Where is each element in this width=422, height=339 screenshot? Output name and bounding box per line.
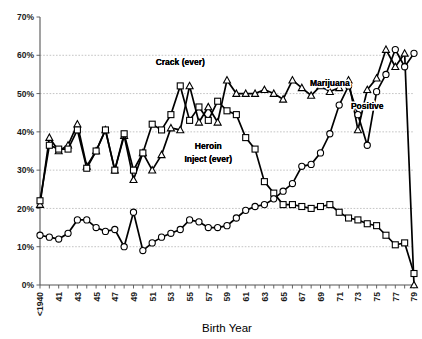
data-point-heroin-inject-ever-6 [93,148,99,154]
data-point-heroin-inject-ever-36 [374,223,380,229]
data-point-heroin-inject-ever-34 [355,217,361,223]
data-point-heroin-inject-ever-9 [121,131,127,137]
data-point-marijuana-positive-32 [336,102,342,108]
data-point-marijuana-positive-37 [383,71,389,77]
data-point-marijuana-positive-25 [271,196,277,202]
data-point-heroin-inject-ever-33 [346,215,352,221]
data-point-heroin-inject-ever-15 [177,83,183,89]
data-point-heroin-inject-ever-39 [402,240,408,246]
x-tick-label-61: 61 [241,292,251,302]
data-point-marijuana-positive-3 [65,230,71,236]
data-point-heroin-inject-ever-19 [215,98,221,104]
data-point-marijuana-positive-40 [411,50,417,56]
y-tick-label-10: 10% [17,242,34,252]
data-point-marijuana-positive-14 [168,230,174,236]
data-point-marijuana-positive-4 [74,217,80,223]
data-point-marijuana-positive-7 [102,228,108,234]
data-point-crack-ever-36 [373,75,380,81]
data-point-heroin-inject-ever-31 [327,202,333,208]
data-point-heroin-inject-ever-37 [383,232,389,238]
data-point-marijuana-positive-27 [289,180,295,186]
data-point-heroin-inject-ever-12 [149,121,155,127]
data-point-heroin-inject-ever-2 [56,146,62,152]
data-point-heroin-inject-ever-29 [308,205,314,211]
data-point-heroin-inject-ever-1 [46,142,52,148]
data-point-heroin-inject-ever-32 [336,209,342,215]
data-point-marijuana-positive-20 [224,223,230,229]
data-point-crack-ever-20 [224,77,231,83]
data-point-marijuana-positive-22 [243,207,249,213]
x-tick-label-65: 65 [279,292,289,302]
data-point-marijuana-positive-6 [93,224,99,230]
data-point-heroin-inject-ever-24 [261,179,267,185]
data-point-marijuana-positive-0 [37,232,43,238]
data-point-heroin-inject-ever-18 [205,117,211,123]
data-point-heroin-inject-ever-0 [37,198,43,204]
data-point-heroin-inject-ever-3 [65,146,71,152]
data-point-marijuana-positive-23 [252,203,258,209]
chart-container: 0%10%20%30%40%50%60%70%<1940414345474951… [0,0,422,339]
data-point-heroin-inject-ever-17 [196,104,202,110]
annotation-crack-ever: Crack (ever) [156,57,205,67]
x-tick-label-47: 47 [110,292,120,302]
data-point-marijuana-positive-12 [149,240,155,246]
x-tick-label-63: 63 [260,292,270,302]
data-point-heroin-inject-ever-35 [364,221,370,227]
annotation-positive: Positive [351,101,384,111]
data-point-marijuana-positive-35 [364,142,370,148]
data-point-marijuana-positive-28 [299,163,305,169]
data-point-marijuana-positive-34 [355,112,361,118]
data-point-marijuana-positive-11 [140,247,146,253]
data-point-marijuana-positive-2 [56,236,62,242]
data-point-heroin-inject-ever-27 [289,202,295,208]
data-point-marijuana-positive-30 [317,150,323,156]
data-point-heroin-inject-ever-30 [318,204,324,210]
data-point-marijuana-positive-36 [374,89,380,95]
data-point-marijuana-positive-16 [187,217,193,223]
x-tick-label-<1940: <1940 [35,292,45,316]
y-tick-label-20: 20% [17,204,34,214]
data-point-heroin-inject-ever-11 [140,150,146,156]
x-tick-label-59: 59 [222,292,232,302]
data-point-marijuana-positive-19 [215,224,221,230]
data-point-heroin-inject-ever-38 [392,242,398,248]
data-point-heroin-inject-ever-40 [411,271,417,277]
data-point-crack-ever-1 [46,134,53,140]
data-point-crack-ever-18 [205,103,212,109]
series-line-crack-ever [40,50,414,285]
y-tick-label-50: 50% [17,89,34,99]
data-point-heroin-inject-ever-7 [102,127,108,133]
data-point-heroin-inject-ever-23 [252,146,258,152]
annotation-marijuana: Marijuana [310,78,350,88]
x-tick-label-71: 71 [335,292,345,302]
data-point-marijuana-positive-9 [121,244,127,250]
data-point-marijuana-positive-15 [177,226,183,232]
data-point-crack-ever-26 [280,96,287,102]
data-point-marijuana-positive-26 [280,188,286,194]
x-tick-label-79: 79 [409,292,419,302]
x-tick-label-45: 45 [92,292,102,302]
y-tick-label-40: 40% [17,127,34,137]
data-point-marijuana-positive-17 [196,219,202,225]
data-point-crack-ever-10 [130,176,137,182]
data-point-marijuana-positive-39 [402,64,408,70]
data-point-marijuana-positive-29 [308,161,314,167]
data-point-heroin-inject-ever-26 [280,202,286,208]
data-point-crack-ever-13 [158,151,165,157]
data-point-crack-ever-14 [167,124,174,130]
annotation-heroin: Heroin [195,141,222,151]
x-tick-label-67: 67 [297,292,307,302]
data-point-crack-ever-4 [74,121,81,127]
data-point-heroin-inject-ever-14 [168,112,174,118]
y-tick-label-60: 60% [17,50,34,60]
x-tick-label-77: 77 [391,292,401,302]
data-point-crack-ever-37 [382,46,389,52]
data-point-marijuana-positive-24 [261,202,267,208]
data-point-heroin-inject-ever-8 [112,167,118,173]
x-axis-title: Birth Year [202,322,252,334]
data-point-marijuana-positive-38 [392,46,398,52]
data-point-crack-ever-16 [186,82,193,88]
x-tick-label-75: 75 [372,292,382,302]
y-tick-label-0: 0% [22,280,35,290]
x-tick-label-73: 73 [353,292,363,302]
